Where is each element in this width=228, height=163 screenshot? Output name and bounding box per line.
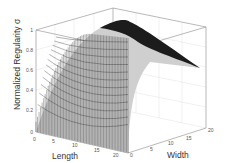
svg-text:15: 15 — [186, 135, 192, 141]
surface-mesh — [36, 20, 200, 153]
svg-text:0.8: 0.8 — [26, 47, 33, 53]
svg-text:20: 20 — [208, 127, 214, 133]
z-axis-label: Normalized Regularity σ — [12, 18, 22, 110]
svg-text:5: 5 — [52, 138, 55, 144]
svg-text:0: 0 — [33, 136, 36, 142]
z-axis-ticks: 0 0.2 0.4 0.6 0.8 1 — [26, 27, 33, 135]
svg-text:15: 15 — [94, 147, 100, 153]
svg-text:0: 0 — [30, 129, 33, 135]
svg-text:0.2: 0.2 — [26, 107, 33, 113]
surface-plot: 0 0.2 0.4 0.6 0.8 1 0 5 10 15 20 0 5 10 … — [0, 0, 228, 163]
svg-text:5: 5 — [150, 146, 153, 152]
svg-text:20: 20 — [113, 152, 119, 158]
length-axis-label: Length — [52, 151, 78, 161]
svg-text:10: 10 — [168, 140, 174, 146]
svg-text:0.6: 0.6 — [26, 67, 33, 73]
svg-text:10: 10 — [72, 142, 78, 148]
svg-text:0: 0 — [130, 152, 133, 158]
svg-text:0.4: 0.4 — [26, 87, 33, 93]
width-axis-label: Width — [167, 150, 189, 160]
svg-text:1: 1 — [30, 27, 33, 33]
